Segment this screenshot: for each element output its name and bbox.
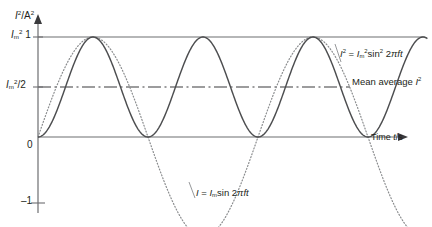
sine-squared-curve-label: I2 = Im2sin2 2πft: [340, 49, 403, 59]
y-tick-label-peak: Im2 1: [11, 30, 31, 40]
x-axis-label: Time t/s: [371, 133, 403, 142]
y-tick-label-neg-one: –1: [21, 196, 32, 206]
i-label-leader: [189, 182, 195, 198]
sine-curve-label: I = Imsin 2πft: [196, 188, 249, 198]
y-axis-label: I2/A2: [15, 11, 34, 21]
figure-root: I2/A2 Im2 1 Im2/2 0 –1 Time t/s I2 = Im2…: [0, 0, 432, 227]
y-tick-label-half: Im2/2: [6, 80, 26, 90]
y-axis-arrowhead: [34, 14, 42, 24]
y-tick-label-zero: 0: [27, 140, 33, 150]
mean-average-label: Mean average I2: [352, 77, 421, 87]
